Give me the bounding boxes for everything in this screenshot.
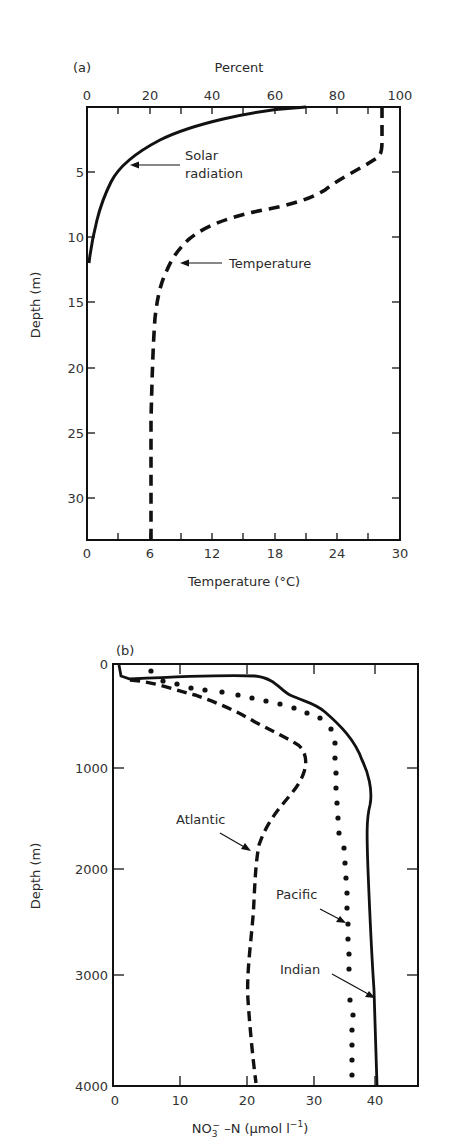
svg-text:Solar: Solar: [185, 148, 219, 163]
pacific-ocean-line: [148, 668, 355, 1077]
x-tick: 18: [267, 546, 284, 561]
x-tick: 6: [146, 546, 154, 561]
top-axis-ticks: 0 20 40 60 80 100: [83, 88, 413, 103]
y-tick: 25: [67, 426, 84, 441]
x-tick: 24: [329, 546, 346, 561]
x-tick: 40: [367, 1093, 384, 1108]
y-tick: 3000: [75, 968, 108, 983]
bottom-tick-marks: [118, 533, 368, 540]
y-tick: 1000: [75, 761, 108, 776]
depth-tick-labels-b: 0 1000 2000 3000 4000: [75, 657, 108, 1094]
svg-text:Temperature: Temperature: [228, 256, 311, 271]
top-tick: 0: [83, 88, 91, 103]
svg-text:Pacific: Pacific: [276, 887, 317, 902]
annotation-temperature: Temperature: [180, 256, 311, 271]
temperature-tick-labels: 0 6 12 18 24 30: [83, 546, 408, 561]
panel-a: (a) Percent 0 20 40 60 80 100: [28, 60, 412, 589]
annotation-indian: Indian: [280, 962, 375, 998]
x-tick: 0: [111, 1093, 119, 1108]
y-tick: 4000: [75, 1079, 108, 1094]
x-tick: 20: [239, 1093, 256, 1108]
panel-b: (b) 0 1000 2000 3000 4000: [28, 643, 418, 1139]
svg-text:Indian: Indian: [280, 962, 320, 977]
top-axis-title: Percent: [215, 60, 264, 75]
top-tick: 100: [388, 88, 413, 103]
top-tick: 80: [329, 88, 346, 103]
x-tick: 30: [392, 546, 409, 561]
nitrate-tick-labels: 0 10 20 30 40: [111, 1093, 383, 1108]
x-tick: 30: [306, 1093, 323, 1108]
y-tick: 5: [76, 165, 84, 180]
y-tick: 10: [67, 230, 84, 245]
y-tick: 2000: [75, 862, 108, 877]
annotation-atlantic: Atlantic: [176, 812, 251, 851]
figure: (a) Percent 0 20 40 60 80 100: [0, 0, 462, 1141]
y-axis-label-a: Depth (m): [28, 272, 43, 339]
svg-text:radiation: radiation: [185, 166, 243, 181]
bottom-tick-marks-b: [180, 1076, 375, 1086]
y-tick: 20: [67, 361, 84, 376]
solar-radiation-line: [89, 107, 306, 263]
y-tick: 30: [67, 491, 84, 506]
indian-ocean-line: [119, 665, 377, 1086]
y-axis-label-b: Depth (m): [28, 843, 43, 910]
x-axis-label-a: Temperature (°C): [187, 574, 300, 589]
depth-tick-labels: 5 10 15 20 25 30: [67, 165, 84, 506]
x-tick: 0: [83, 546, 91, 561]
atlantic-ocean-line: [130, 680, 306, 1083]
svg-text:Atlantic: Atlantic: [176, 812, 225, 827]
x-axis-label-b: NO3− –N (μmol l−1): [192, 1119, 308, 1139]
y-tick: 15: [67, 295, 84, 310]
top-tick-marks: [118, 107, 368, 114]
annotation-pacific: Pacific: [276, 887, 346, 923]
top-tick: 60: [267, 88, 284, 103]
top-tick: 20: [142, 88, 159, 103]
y-tick: 0: [100, 657, 108, 672]
top-tick: 40: [204, 88, 221, 103]
x-tick: 12: [204, 546, 221, 561]
annotation-solar: Solar radiation: [130, 148, 243, 181]
panel-a-tag: (a): [73, 60, 91, 75]
depth-tick-marks: [87, 172, 400, 498]
x-tick: 10: [172, 1093, 189, 1108]
top-tick-marks-b: [180, 664, 375, 674]
panel-b-tag: (b): [116, 643, 134, 658]
